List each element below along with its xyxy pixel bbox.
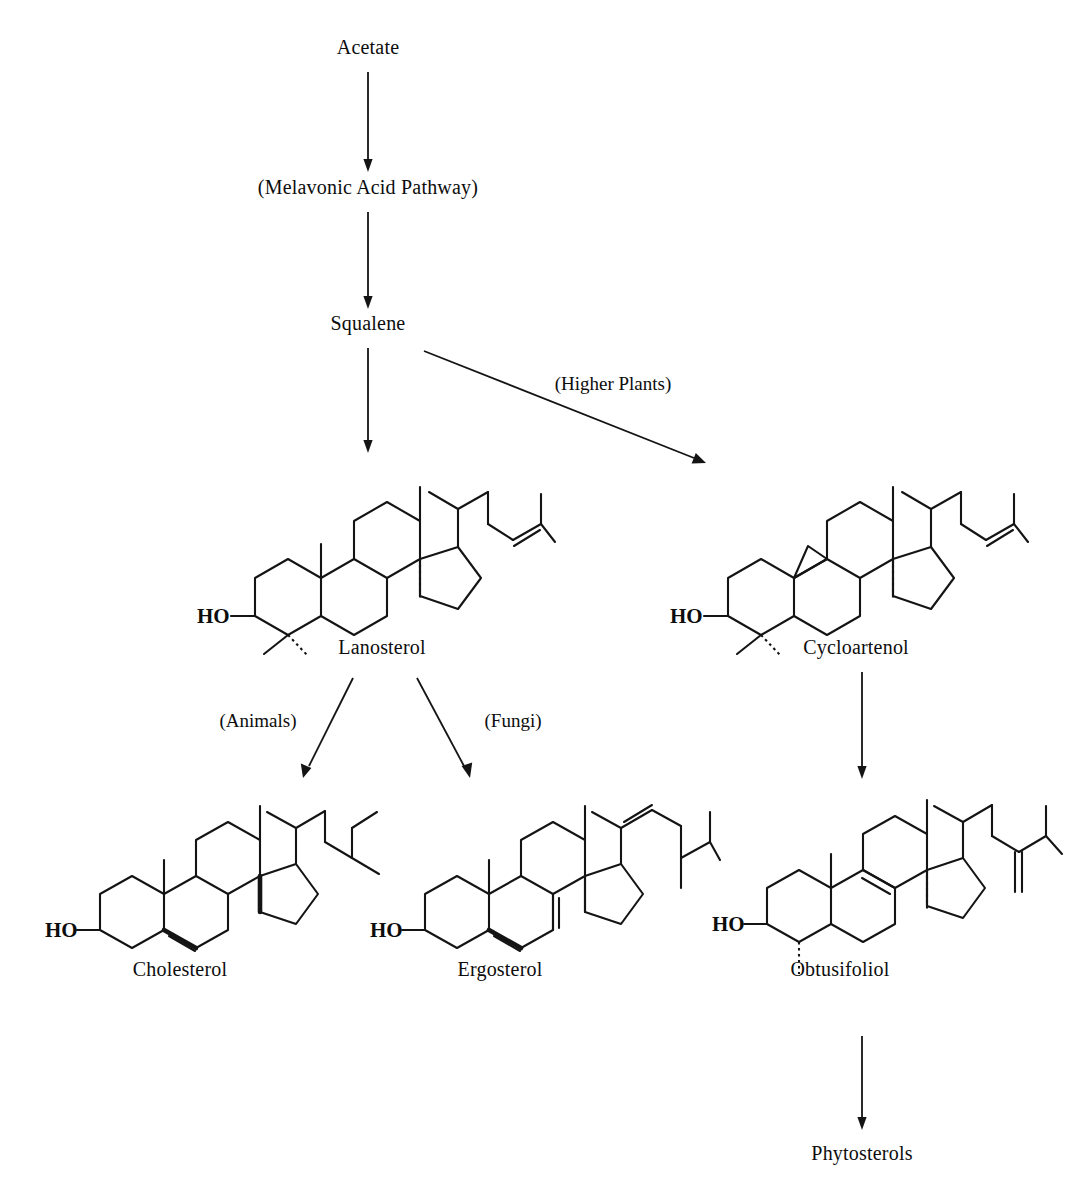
pathway-diagram: Acetate (Melavonic Acid Pathway) Squalen… [0,0,1077,1199]
cholesterol-structure: HO [45,788,395,968]
node-label-phytosterols: Phytosterols [811,1142,912,1165]
arrow-lanosterol-to-cholesterol [301,678,353,778]
edge-label-higher-plants: (Higher Plants) [555,373,672,395]
hydroxyl-label: HO [45,918,78,942]
lanosterol-structure: HO [195,468,555,658]
arrow-squalene-to-lanosterol [363,348,372,453]
node-label-squalene: Squalene [331,312,406,335]
node-label-mevalonate: (Melavonic Acid Pathway) [258,176,478,199]
obtusifoliol-structure: HO [712,788,1062,968]
hydroxyl-label: HO [670,604,703,628]
cycloartenol-structure: HO [668,468,1028,658]
arrow-obtusifoliol-to-phytosterols [857,1036,866,1130]
arrow-cycloartenol-to-obtusifoliol [857,672,866,779]
arrow-mevalonate-to-squalene [363,212,372,309]
hydroxyl-label: HO [197,604,230,628]
edge-label-fungi: (Fungi) [485,710,542,732]
node-label-acetate: Acetate [337,36,399,59]
arrow-squalene-to-cycloartenol [424,351,706,464]
hydroxyl-label: HO [370,918,403,942]
ergosterol-structure: HO [370,788,720,968]
edge-label-animals: (Animals) [219,710,296,732]
arrow-acetate-to-mevalonate [363,72,372,172]
arrow-lanosterol-to-ergosterol [417,678,472,778]
hydroxyl-label: HO [712,912,745,936]
